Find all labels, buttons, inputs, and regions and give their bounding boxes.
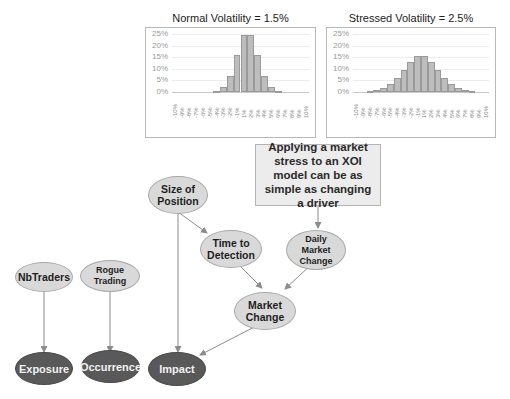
node-rogue-trading[interactable]: Rogue Trading [80, 260, 140, 292]
node-size-of-position[interactable]: Size of Position [148, 176, 208, 214]
node-label: Time to Detection [206, 237, 256, 261]
callout-market-stress: Applying a market stress to an XOI model… [255, 144, 381, 206]
node-label: Occurrence [80, 361, 141, 373]
node-nbtraders[interactable]: NbTraders [15, 262, 73, 292]
node-daily-market-change[interactable]: Daily Market Change [286, 230, 346, 270]
node-exposure[interactable]: Exposure [15, 352, 73, 385]
node-label: Exposure [19, 363, 69, 375]
node-label: NbTraders [18, 271, 70, 283]
node-label: Rogue Trading [81, 265, 139, 287]
node-label: Size of Position [156, 183, 200, 207]
node-occurrence[interactable]: Occurrence [81, 350, 140, 383]
node-market-change[interactable]: Market Change [234, 292, 296, 330]
node-label: Impact [159, 363, 194, 375]
node-impact[interactable]: Impact [148, 352, 206, 386]
edge-size-to-time-to-detection [178, 212, 207, 233]
callout-text: Applying a market stress to an XOI model… [260, 140, 376, 210]
node-label: Daily Market Change [297, 234, 335, 267]
node-label: Market Change [242, 299, 288, 323]
node-time-to-detection[interactable]: Time to Detection [200, 230, 262, 268]
